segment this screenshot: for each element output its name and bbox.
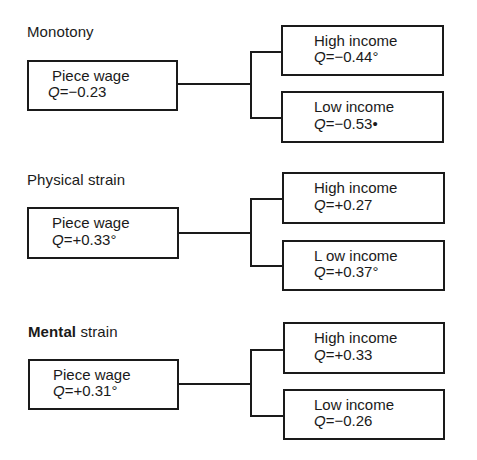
q-number: =−0.44° [326, 48, 379, 65]
q-number: =−0.23 [60, 83, 107, 100]
box-q-value: Q=+0.27 [314, 197, 372, 213]
q-symbol: Q [48, 83, 60, 100]
section-title-bold: Mental [28, 323, 76, 340]
box-q-value: Q=−0.53• [314, 116, 378, 132]
connector-vertical [250, 198, 252, 267]
section-title-physical-strain: Physical strain [27, 172, 125, 188]
section-title-text: strain [76, 323, 118, 340]
q-number: =−0.53• [326, 115, 378, 132]
connector-vertical [250, 349, 252, 417]
high-income-box-mental-strain: High income Q=+0.33 [283, 322, 445, 374]
connector-to-low [250, 117, 282, 119]
box-label: Piece wage [52, 68, 130, 84]
low-income-box-mental-strain: Low income Q=−0.26 [283, 389, 445, 440]
q-symbol: Q [53, 382, 65, 399]
piece-wage-box-monotony: Piece wage Q=−0.23 [27, 60, 178, 111]
section-title-text: Monotony [27, 23, 94, 40]
connector-to-low [250, 415, 284, 417]
q-symbol: Q [314, 196, 326, 213]
section-title-text: Physical strain [27, 171, 125, 188]
connector-vertical [250, 51, 252, 119]
box-label: High income [314, 33, 397, 49]
connector-horizontal [179, 232, 252, 234]
q-number: =+0.31° [65, 382, 118, 399]
q-symbol: Q [52, 231, 64, 248]
box-label: High income [314, 330, 397, 346]
piece-wage-box-physical-strain: Piece wage Q=+0.33° [27, 207, 179, 259]
low-income-box-physical-strain: L ow income Q=+0.37° [282, 240, 445, 291]
box-q-value: Q=+0.33° [52, 232, 116, 248]
box-label: Low income [314, 397, 394, 413]
q-symbol: Q [314, 48, 326, 65]
q-symbol: Q [314, 115, 326, 132]
q-symbol: Q [314, 346, 326, 363]
connector-horizontal [178, 83, 252, 85]
box-label: Piece wage [53, 367, 131, 383]
q-number: =+0.27 [326, 196, 373, 213]
q-symbol: Q [314, 412, 326, 429]
q-number: =+0.33° [64, 231, 117, 248]
box-label: L ow income [314, 248, 398, 264]
connector-to-high [250, 349, 284, 351]
q-symbol: Q [314, 263, 326, 280]
box-label: Piece wage [52, 215, 130, 231]
low-income-box-monotony: Low income Q=−0.53• [281, 91, 444, 143]
box-q-value: Q=+0.37° [314, 264, 378, 280]
box-label: Low income [314, 99, 394, 115]
connector-to-high [250, 198, 283, 200]
connector-to-high [250, 51, 282, 53]
piece-wage-box-mental-strain: Piece wage Q=+0.31° [28, 359, 179, 410]
section-title-monotony: Monotony [27, 24, 94, 40]
connector-to-low [250, 265, 283, 267]
box-q-value: Q=+0.33 [314, 347, 372, 363]
q-number: =+0.37° [326, 263, 379, 280]
q-number: =+0.33 [326, 346, 373, 363]
box-q-value: Q=−0.23 [48, 84, 106, 100]
box-q-value: Q=−0.26 [314, 413, 372, 429]
box-q-value: Q=+0.31° [53, 383, 117, 399]
high-income-box-physical-strain: High income Q=+0.27 [282, 172, 445, 224]
box-q-value: Q=−0.44° [314, 49, 378, 65]
q-number: =−0.26 [326, 412, 373, 429]
connector-horizontal [179, 383, 252, 385]
high-income-box-monotony: High income Q=−0.44° [281, 25, 444, 76]
section-title-mental-strain: Mental strain [28, 324, 118, 340]
box-label: High income [314, 180, 397, 196]
